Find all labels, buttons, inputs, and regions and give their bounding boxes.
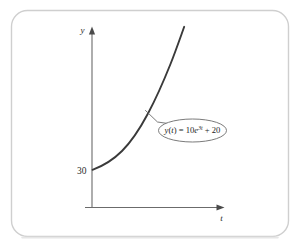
- figure-frame: [12, 11, 289, 237]
- y-intercept-tick-label: 30: [77, 166, 87, 176]
- equation-constant-term: + 20: [203, 125, 221, 135]
- figure-container: y t 30 y(t) = 10e3t + 20: [0, 0, 300, 250]
- y-axis-label: y: [80, 25, 85, 35]
- equation-equals-coefficient: = 10: [177, 125, 195, 135]
- exponential-growth-figure: y t 30 y(t) = 10e3t + 20: [0, 0, 300, 250]
- callout-equation: y(t) = 10e3t + 20: [164, 125, 221, 135]
